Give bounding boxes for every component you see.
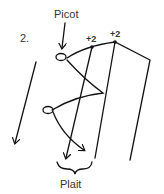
cord-right-down <box>95 42 115 158</box>
plait-brace <box>57 162 92 174</box>
picot-loop-top <box>56 54 66 61</box>
plait-label: Plait <box>60 178 81 190</box>
crossing-cord <box>52 60 103 110</box>
direction-arrow <box>15 62 36 143</box>
knotting-diagram: Picot 2. +2 +2 Plait <box>0 0 164 194</box>
picot-label: Picot <box>54 8 78 20</box>
count-label-right: +2 <box>110 29 120 39</box>
picot-pointer-arrow <box>62 23 65 48</box>
bottom-cord-arrow <box>53 112 84 150</box>
step-number: 2. <box>20 32 29 44</box>
count-label-left: +2 <box>86 34 96 44</box>
